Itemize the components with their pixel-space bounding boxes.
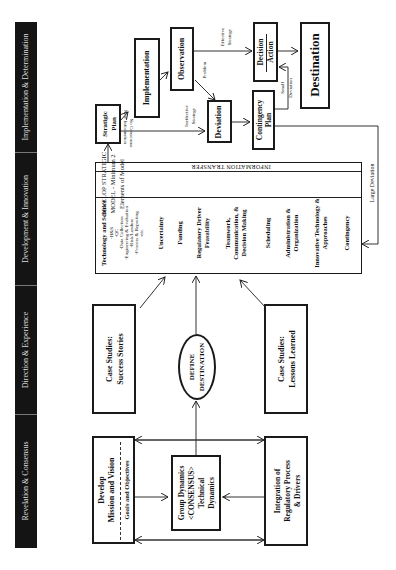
define-line2: DESTINATION	[198, 343, 206, 392]
group-dynamics-line2: <CONSENSUS>	[188, 466, 197, 520]
define-line1: DEFINE	[188, 354, 196, 380]
observation-box: Observation	[170, 27, 194, 91]
lessons-learned-box: Case Studies: Lessons Learned	[264, 304, 308, 414]
ineffective-label: Ineffective	[184, 105, 190, 127]
model-item-scheduling: Scheduling	[264, 218, 271, 249]
lessons-line1: Case Studies:	[277, 336, 286, 382]
observation-label: Observation	[177, 38, 186, 80]
model-item-uncertainty: Uncertainty	[157, 216, 164, 249]
model-item-decision-making: Decision Making	[240, 210, 247, 257]
mission-heading-2: Mission and Vision	[107, 458, 116, 523]
deviation-box: Deviation	[207, 100, 232, 143]
small-deviation-label: Deviation	[288, 78, 294, 98]
model-item-administration: Administration &	[284, 208, 291, 258]
new-information-label: New Information	[122, 110, 128, 145]
problem-label: Problem	[202, 62, 208, 79]
model-title-block: DEVELOP STRATIGIC MODEL - Minimum 2 Elem…	[96, 171, 134, 197]
tech-sub-etc: -etc.	[139, 229, 145, 238]
define-destination-ellipse: DEFINE DESTINATION	[178, 334, 216, 400]
lessons-line2: Lessons Learned	[288, 330, 297, 388]
regulatory-line2: Regulatory Process	[284, 460, 293, 522]
group-dynamics-line3: Technical	[198, 478, 207, 509]
contingency-plan-line2: Plan	[265, 113, 274, 128]
regulatory-process-box: Integration of Regulatory Process & Driv…	[264, 436, 308, 546]
no-consensus-label-rot: No Consensus	[128, 119, 134, 148]
strategic-model-box: INFORMATION TRANSFER DEVELOP STRATIGIC D…	[95, 162, 362, 274]
group-dynamics-line1: Group Dynamics	[178, 466, 187, 521]
ineffective-strategy-label: Strategy	[191, 108, 197, 125]
goals-objectives: Goals and Objectives	[123, 461, 130, 520]
group-dynamics-box: Group Dynamics <CONSENSUS> Technical Dyn…	[171, 455, 221, 531]
dashed-divider	[120, 442, 121, 540]
strategic-plan-box: Stratigic Plan	[95, 104, 121, 144]
model-item-regulatory-driver: Regulatory Driver	[195, 207, 202, 258]
tech-science-heading: Technology and Science	[100, 200, 107, 266]
model-item-communication: Communication, &	[232, 206, 239, 259]
strategic-plan-line1: Stratigic	[101, 111, 109, 137]
model-title-line3: Elements of Model	[118, 159, 125, 209]
destination-label: Destination	[308, 33, 323, 97]
model-item-innovative-tech: Innovative Technology &	[313, 198, 320, 268]
implementation-label: Implementation	[142, 51, 151, 106]
effective-strategy-label: Strategy	[227, 29, 233, 46]
success-line1: Case Studies:	[105, 336, 114, 382]
model-item-teamwork: Teamwork,	[224, 217, 231, 248]
mission-heading-1: Develop	[97, 476, 106, 504]
model-title-line2: MODEL - Minimum 2	[109, 154, 116, 213]
group-dynamics-line4: Dynamics	[208, 477, 217, 509]
regulatory-line3: & Drivers	[294, 475, 303, 507]
success-line2: Success Stories	[116, 333, 125, 384]
strategic-plan-line2: Plan	[110, 117, 118, 131]
model-item-funding: Funding	[176, 221, 183, 245]
regulatory-line1: Integration of	[274, 469, 283, 513]
contingency-plan-box: Contingency Plan	[252, 90, 275, 150]
decision-action-box: Decision Action	[253, 22, 278, 82]
deviation-label: Deviation	[214, 106, 223, 139]
effective-label: Effective	[220, 28, 226, 46]
large-deviation-label: Large Deviation	[369, 163, 376, 202]
destination-box: Destination	[300, 22, 330, 109]
implementation-box: Implementation	[134, 38, 160, 118]
success-stories-box: Case Studies: Success Stories	[92, 304, 136, 414]
decision-label: Decision	[257, 38, 266, 65]
small-label: Small	[280, 82, 286, 94]
model-item-feasability: Feasability	[203, 218, 210, 248]
info-transfer-label: INFORMATION TRANSFER	[116, 163, 346, 171]
model-item-approaches: Approaches	[321, 216, 328, 249]
model-item-contingency: Contingency	[343, 215, 350, 250]
mission-vision-box: Develop Mission and Vision Goals and Obj…	[92, 436, 135, 544]
action-label: Action	[267, 41, 276, 62]
model-item-organization: Organization	[292, 215, 299, 252]
